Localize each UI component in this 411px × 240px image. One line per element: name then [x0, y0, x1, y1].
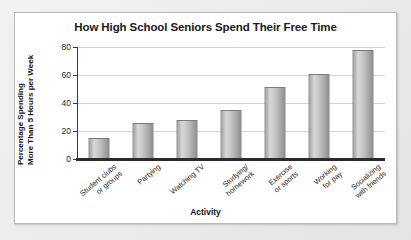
bar[interactable]	[133, 123, 154, 159]
bar[interactable]	[89, 138, 110, 159]
x-tick-label: Student clubsor groups	[79, 163, 124, 205]
plot-area: 020406080	[77, 47, 385, 159]
bar-slot	[253, 47, 297, 159]
y-axis-title: Percentage Spending More Than 5 Hours pe…	[23, 35, 49, 165]
bar[interactable]	[221, 110, 242, 159]
bar[interactable]	[353, 50, 374, 159]
figure-root: How High School Seniors Spend Their Free…	[0, 0, 411, 240]
chart-frame: How High School Seniors Spend Their Free…	[14, 12, 397, 224]
bar-slot	[77, 47, 121, 159]
bar[interactable]	[177, 120, 198, 159]
x-tick-label: Studying/homework	[219, 163, 256, 198]
x-axis-line	[76, 158, 385, 161]
bars-layer	[77, 47, 385, 159]
x-tick-label: Watching TV	[169, 163, 207, 197]
chart-title: How High School Seniors Spend Their Free…	[15, 21, 396, 33]
bar-slot	[341, 47, 385, 159]
bar[interactable]	[265, 87, 286, 159]
bar-slot	[165, 47, 209, 159]
bar-slot	[297, 47, 341, 159]
x-tick-label: Workingfor pay	[312, 163, 344, 194]
y-tick-label: 60	[62, 70, 71, 80]
y-axis-title-line-2: More Than 5 Hours per Week	[27, 55, 35, 165]
x-axis-title: Activity	[15, 207, 396, 217]
bar-slot	[209, 47, 253, 159]
y-tick-label: 0	[66, 154, 71, 164]
bar[interactable]	[309, 74, 330, 159]
y-tick-label: 40	[62, 98, 71, 108]
y-tick-label: 20	[62, 126, 71, 136]
x-tick-label: Socializingwith friends	[348, 163, 388, 200]
y-tick-label: 80	[62, 42, 71, 52]
x-tick-label: Exerciseor sports	[267, 163, 300, 195]
x-tick-label: Partying	[136, 163, 162, 187]
y-axis-title-line-1: Percentage Spending	[17, 83, 25, 165]
bar-slot	[121, 47, 165, 159]
